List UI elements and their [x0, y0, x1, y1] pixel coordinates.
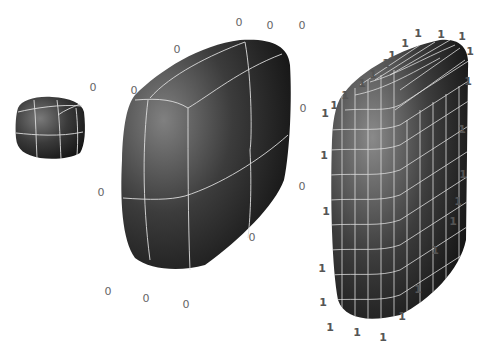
vertex-weight-label-one: 1: [320, 150, 328, 161]
vertex-weight-label-one: 1: [459, 169, 467, 180]
vertex-weight-label-zero: 0: [105, 286, 112, 297]
vertex-weight-label-one: 1: [464, 76, 472, 87]
vertex-weight-label-one: 1: [437, 29, 445, 40]
vertex-weight-label-one: 1: [398, 311, 406, 322]
vertex-weight-label-one: 1: [449, 216, 457, 227]
vertex-weight-label-zero: 0: [143, 293, 150, 304]
vertex-weight-label-one: 1: [369, 69, 377, 80]
vertex-weight-label-zero: 0: [183, 299, 190, 310]
rounded-box-fine: [330, 40, 470, 320]
vertex-weight-label-one: 1: [330, 100, 338, 111]
vertex-weight-label-one: 1: [466, 46, 474, 57]
vertex-weight-label-zero: 0: [131, 85, 138, 96]
figure-canvas: 0000000000000 11111111111111111111111111…: [0, 0, 488, 358]
large-rounded-box-coarse: [121, 40, 290, 270]
vertex-weight-label-zero: 0: [90, 82, 97, 93]
vertex-weight-label-zero: 0: [300, 103, 307, 114]
vertex-weight-label-one: 1: [454, 196, 462, 207]
vertex-weight-label-one: 1: [414, 28, 422, 39]
vertex-weight-label-one: 1: [431, 245, 439, 256]
vertex-weight-label-one: 1: [379, 332, 387, 343]
vertex-weight-label-one: 1: [319, 297, 327, 308]
vertex-weight-label-one: 1: [358, 78, 366, 89]
vertex-weight-label-one: 1: [341, 90, 349, 101]
vertex-weight-label-one: 1: [321, 108, 329, 119]
vertex-weight-label-zero: 0: [174, 44, 181, 55]
vertex-weight-label-zero: 0: [299, 20, 306, 31]
vertex-weight-label-one: 1: [322, 206, 330, 217]
shapes-illustration: [0, 0, 488, 358]
vertex-weight-label-zero: 0: [299, 181, 306, 192]
vertex-weight-label-one: 1: [458, 124, 466, 135]
small-rounded-cube: [16, 97, 85, 159]
vertex-weight-label-one: 1: [318, 263, 326, 274]
vertex-weight-label-zero: 0: [249, 232, 256, 243]
vertex-weight-label-one: 1: [401, 38, 409, 49]
vertex-weight-label-one: 1: [326, 322, 334, 333]
vertex-weight-label-zero: 0: [98, 187, 105, 198]
vertex-weight-label-one: 1: [382, 58, 390, 69]
vertex-weight-label-one: 1: [414, 284, 422, 295]
vertex-weight-label-one: 1: [353, 327, 361, 338]
vertex-weight-label-zero: 0: [267, 20, 274, 31]
vertex-weight-label-one: 1: [458, 31, 466, 42]
vertex-weight-label-zero: 0: [236, 17, 243, 28]
